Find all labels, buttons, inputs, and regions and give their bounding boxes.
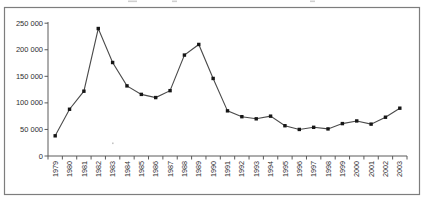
- y-axis-tick-label: 50 000: [20, 125, 43, 134]
- data-point-marker: [211, 77, 214, 80]
- x-axis-tick-label: 1993: [252, 161, 261, 177]
- data-point-marker: [68, 108, 71, 111]
- x-axis-tick-label: 1998: [324, 161, 333, 177]
- x-axis-tick-label: 1989: [194, 161, 203, 177]
- data-point-marker: [125, 84, 128, 87]
- x-axis-tick-label: 1980: [65, 161, 74, 177]
- data-point-marker: [298, 128, 301, 131]
- data-point-marker: [183, 53, 186, 56]
- x-axis-tick-label: 1994: [266, 161, 275, 177]
- y-axis-tick-label: 200 000: [16, 45, 43, 54]
- x-axis-tick-label: 2002: [381, 161, 390, 177]
- x-axis-tick-label: 1995: [281, 161, 290, 177]
- data-point-marker: [341, 122, 344, 125]
- data-point-marker: [312, 126, 315, 129]
- data-point-marker: [82, 89, 85, 92]
- data-point-marker: [255, 117, 258, 120]
- x-axis-tick-label: 2003: [395, 161, 404, 177]
- x-axis-tick-label: 2001: [367, 161, 376, 177]
- x-axis-tick-label: 1991: [223, 161, 232, 177]
- data-point-marker: [140, 93, 143, 96]
- scanned-line-chart-image: 050 000100 000150 000200 000250 00019791…: [0, 0, 424, 197]
- cropped-text-remnant: [172, 1, 177, 3]
- y-axis-tick-label: 100 000: [16, 98, 43, 107]
- data-point-marker: [283, 124, 286, 127]
- data-point-marker: [326, 127, 329, 130]
- data-point-marker: [226, 109, 229, 112]
- x-axis-tick-label: 1984: [123, 161, 132, 177]
- cropped-text-remnant: [310, 1, 315, 3]
- x-axis-tick-label: 2000: [352, 161, 361, 177]
- data-point-marker: [197, 43, 200, 46]
- x-axis-tick-label: 1986: [151, 161, 160, 177]
- x-axis-tick-label: 1987: [166, 161, 175, 177]
- data-point-marker: [369, 122, 372, 125]
- y-axis-tick-label: 250 000: [16, 19, 43, 28]
- data-point-marker: [53, 134, 56, 137]
- cropped-text-remnant: [128, 1, 137, 3]
- data-point-marker: [168, 89, 171, 92]
- data-point-marker: [269, 114, 272, 117]
- line-chart: 050 000100 000150 000200 000250 00019791…: [0, 0, 424, 197]
- x-axis-tick-label: 1985: [137, 161, 146, 177]
- x-axis-tick-label: 1983: [108, 161, 117, 177]
- data-point-marker: [154, 96, 157, 99]
- x-axis-tick-label: 1997: [309, 161, 318, 177]
- data-point-marker: [384, 116, 387, 119]
- x-axis-tick-label: 1988: [180, 161, 189, 177]
- x-axis-tick-label: 1979: [51, 161, 60, 177]
- data-point-marker: [97, 27, 100, 30]
- data-point-marker: [398, 106, 401, 109]
- scan-speck: [112, 143, 114, 145]
- y-axis-tick-label: 150 000: [16, 72, 43, 81]
- x-axis-tick-label: 1982: [94, 161, 103, 177]
- data-point-marker: [111, 61, 114, 64]
- y-axis-tick-label: 0: [39, 152, 43, 161]
- x-axis-tick-label: 1996: [295, 161, 304, 177]
- x-axis-tick-label: 1990: [209, 161, 218, 177]
- x-axis-tick-label: 1999: [338, 161, 347, 177]
- data-point-marker: [240, 115, 243, 118]
- x-axis-tick-label: 1981: [80, 161, 89, 177]
- x-axis-tick-label: 1992: [237, 161, 246, 177]
- data-point-marker: [355, 119, 358, 122]
